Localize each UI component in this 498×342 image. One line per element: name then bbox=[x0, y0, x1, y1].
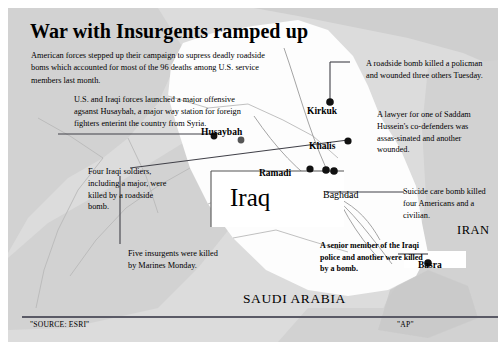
city-label-husaybah: Husaybah bbox=[201, 127, 242, 137]
source-credit: "SOURCE: ESRI" bbox=[30, 320, 89, 329]
country-label-saudi-arabia: SAUDI ARABIA bbox=[243, 291, 346, 307]
agency-credit: "AP" bbox=[397, 320, 414, 329]
annotation-four-iraqi-soldiers: Four Iraqi soldiers, including a major, … bbox=[88, 166, 173, 213]
city-label-basra: Basra bbox=[418, 260, 442, 270]
country-label-iran: IRAN bbox=[457, 223, 490, 238]
map-panel: War with Insurgents ramped up American f… bbox=[8, 8, 498, 342]
annotation-lawyer-assassinated: A lawyer for one of Saddam Hussein's co-… bbox=[377, 109, 487, 156]
city-label-kirkuk: Kirkuk bbox=[307, 106, 337, 116]
headline: War with Insurgents ramped up bbox=[30, 20, 360, 42]
annotation-roadside-bomb: A roadside bomb killed a policman and wo… bbox=[366, 58, 491, 82]
city-label-khalis: Khalis bbox=[309, 141, 335, 151]
city-label-ramadi: Ramadi bbox=[259, 168, 291, 178]
city-label-baghdad: Baghdad bbox=[323, 189, 359, 200]
annotation-senior-police-killed: A senior member of the Iraqi police and … bbox=[320, 240, 425, 275]
news-map-figure: War with Insurgents ramped up American f… bbox=[0, 0, 498, 342]
annotation-suicide-car-bomb: Suicide care bomb killed four Americans … bbox=[403, 186, 498, 221]
annotation-five-insurgents: Five insurgents were killed by Marines M… bbox=[128, 248, 220, 272]
lede-paragraph: American forces stepped up their campaig… bbox=[31, 50, 276, 87]
country-label-iraq: Iraq bbox=[230, 184, 270, 212]
footer-rule bbox=[22, 316, 498, 318]
annotation-husaybah-offensive: U.S. and Iraqi forces launched a major o… bbox=[74, 94, 244, 129]
